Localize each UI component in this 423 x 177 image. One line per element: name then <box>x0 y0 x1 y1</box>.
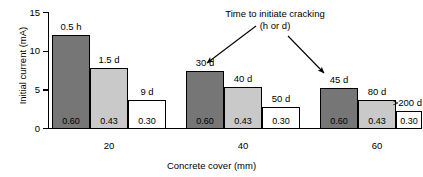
arrow-to-30d <box>207 26 256 63</box>
arrow-to-45d <box>288 36 324 73</box>
x-axis-label: Concrete cover (mm) <box>0 160 423 171</box>
annotation-arrows <box>0 0 423 177</box>
bar-chart-figure: Initial current (mA) 0 5 10 15 0.60 0.5 … <box>0 0 423 177</box>
